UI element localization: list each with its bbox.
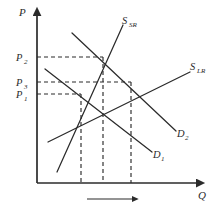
curve-label-d1: D 1	[152, 149, 165, 163]
curve-label-d2: D 2	[176, 128, 189, 142]
curve-label-s-lr-subscript: LR	[196, 67, 206, 75]
curve-label-s-sr: S SR	[122, 15, 138, 29]
diagram-canvas: P Q P 2 P 3 P 1 S SR S LR	[0, 0, 223, 210]
supply-demand-diagram: P Q P 2 P 3 P 1 S SR S LR	[0, 0, 223, 210]
price-tick-p1: P 1	[15, 89, 28, 103]
axes-group	[37, 14, 198, 183]
price-tick-p2-subscript: 2	[24, 58, 28, 66]
curves-group	[45, 25, 190, 172]
price-tick-p3-letter: P	[15, 77, 23, 88]
price-tick-p1-subscript: 1	[24, 95, 28, 103]
price-tick-p3-subscript: 3	[23, 83, 28, 91]
curve-label-s-sr-letter: S	[122, 15, 128, 26]
curve-label-d2-letter: D	[176, 128, 185, 139]
quantity-axis-label: Q	[198, 189, 206, 201]
quantity-guide-lines	[81, 57, 131, 183]
price-tick-labels: P 2 P 3 P 1	[15, 52, 28, 103]
price-axis-label: P	[18, 6, 26, 18]
curve-labels: S SR S LR D 1 D 2	[122, 15, 206, 163]
curve-label-s-lr-letter: S	[190, 61, 196, 72]
curve-label-d1-letter: D	[152, 149, 161, 160]
price-tick-p1-letter: P	[15, 89, 23, 100]
curve-label-d1-subscript: 1	[161, 155, 165, 163]
price-tick-p2: P 2	[15, 52, 28, 66]
curve-label-d2-subscript: 2	[185, 134, 189, 142]
curve-label-s-lr: S LR	[190, 61, 206, 75]
curve-supply-long-run	[48, 72, 190, 142]
curve-label-s-sr-subscript: SR	[129, 21, 138, 29]
curve-supply-short-run	[57, 25, 123, 172]
price-tick-p2-letter: P	[15, 52, 23, 63]
curve-demand-initial	[45, 69, 152, 152]
